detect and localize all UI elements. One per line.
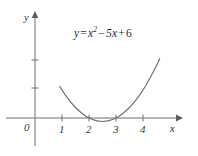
- parabola-figure: 0 1 2 3 4 x y y=x2−5x+6: [0, 0, 198, 156]
- equation-constant: 6: [126, 27, 132, 39]
- equation-annotation: y=x2−5x+6: [74, 28, 132, 40]
- equation-minus: −: [97, 27, 106, 39]
- y-axis-arrowhead: [32, 11, 39, 18]
- x-axis-label: x: [170, 124, 175, 135]
- x-tick-label-4: 4: [140, 124, 146, 135]
- origin-label: 0: [24, 122, 30, 133]
- x-tick-label-3: 3: [113, 124, 119, 135]
- parabola-curve: [60, 59, 160, 122]
- equation-plus: +: [117, 27, 126, 39]
- x-tick-label-2: 2: [86, 124, 92, 135]
- equation-linear-term: 5x: [106, 27, 117, 39]
- y-axis-label: y: [24, 13, 29, 24]
- x-tick-label-1: 1: [59, 124, 65, 135]
- x-axis-arrowhead: [176, 115, 183, 122]
- equation-equals: =: [79, 27, 88, 39]
